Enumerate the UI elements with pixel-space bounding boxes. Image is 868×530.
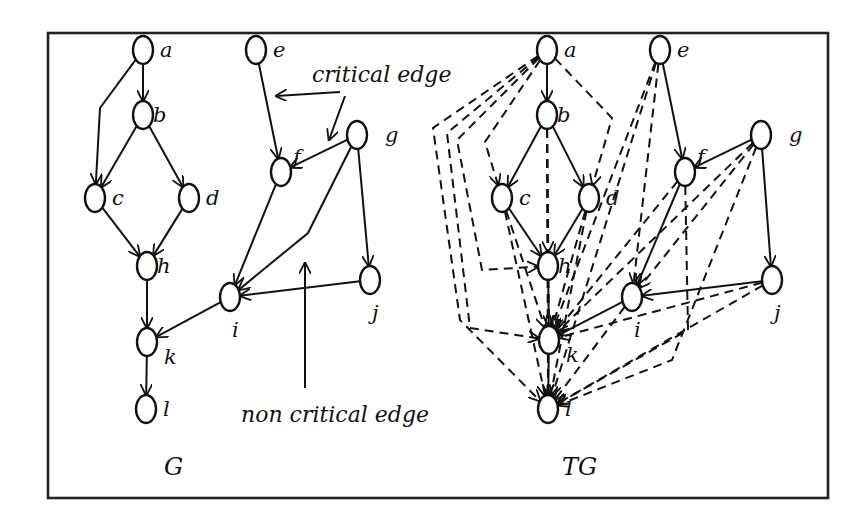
tg-node-label-a: a (564, 38, 577, 62)
g-node-e (246, 36, 266, 64)
g-node-label-l: l (163, 397, 170, 421)
tg-node-i (622, 283, 642, 311)
tg-node-d (579, 184, 599, 212)
g-edge-e-f (259, 64, 278, 159)
tg-edge-g-k (557, 143, 753, 332)
g-node-label-h: h (157, 254, 171, 278)
nodes-layer: abcdhklefgijabcdhklefgij (85, 36, 802, 423)
tg-edge-g-j (762, 149, 771, 266)
tg-node-label-f: f (695, 145, 708, 169)
g-node-label-b: b (153, 103, 166, 127)
edges-layer (96, 56, 771, 405)
g-node-j (360, 266, 380, 294)
critical-edge-label: critical edge (312, 62, 451, 87)
tg-node-g (751, 121, 771, 149)
tg-node-label-i: i (634, 318, 641, 342)
g-edge-k-l (146, 356, 147, 395)
g-node-l (136, 395, 156, 423)
g-edge-d-h (154, 209, 183, 256)
g-node-h (137, 252, 157, 280)
tg-edge-b-c (508, 126, 541, 187)
tg-edge-c-l (505, 211, 545, 395)
g-node-a (133, 36, 153, 64)
tg-edge-b-d (553, 126, 583, 186)
figure-canvas: critical edge non critical edge abcdhkle… (0, 0, 868, 530)
tg-node-label-g: g (789, 123, 802, 147)
tg-node-label-e: e (677, 38, 689, 62)
tg-node-f (675, 158, 695, 186)
g-node-label-d: d (206, 186, 219, 210)
g-node-label-e: e (273, 38, 285, 62)
g-node-label-a: a (160, 38, 173, 62)
critical-edge-pointer-arrow (329, 96, 345, 140)
tg-edge-e-f (663, 64, 682, 159)
tg-node-a (537, 36, 557, 64)
graph-caption-g: G (164, 453, 183, 481)
tg-node-h (538, 252, 558, 280)
g-node-label-k: k (164, 345, 177, 369)
g-node-f (271, 158, 291, 186)
tg-node-e (650, 36, 670, 64)
g-node-label-j: j (368, 301, 379, 325)
g-node-b (133, 101, 153, 129)
tg-node-label-h: h (558, 254, 572, 278)
g-node-d (179, 184, 199, 212)
tg-node-label-k: k (566, 343, 579, 367)
g-node-c (85, 184, 105, 212)
g-edge-b-c (101, 126, 136, 187)
tg-node-label-j: j (770, 301, 781, 325)
g-edge-a-c (96, 60, 136, 184)
g-node-label-f: f (291, 145, 304, 169)
tg-node-b (537, 101, 557, 129)
g-edge-f-i (235, 184, 276, 285)
g-edge-g-j (358, 149, 369, 266)
g-node-label-c: c (112, 186, 124, 210)
tg-node-c (492, 184, 512, 212)
g-node-label-i: i (232, 318, 239, 342)
tg-edge-d-l (551, 212, 587, 396)
g-edge-b-d (149, 126, 183, 187)
g-node-k (137, 328, 157, 356)
g-node-label-g: g (385, 123, 398, 147)
annotations-layer: critical edge non critical edge (241, 62, 451, 427)
tg-node-j (762, 266, 782, 294)
tg-node-label-b: b (557, 103, 570, 127)
tg-edge-a-l (433, 56, 540, 401)
dependency-graph-figure: critical edge non critical edge abcdhkle… (0, 0, 868, 530)
tg-node-l (538, 395, 558, 423)
graph-caption-tg: TG (562, 453, 597, 481)
tg-node-k (539, 326, 559, 354)
g-node-i (220, 283, 240, 311)
tg-node-label-d: d (606, 186, 619, 210)
critical-edge-pointer-arrow (276, 92, 340, 96)
g-edge-i-k (156, 302, 220, 337)
tg-node-label-c: c (519, 186, 531, 210)
g-node-g (347, 121, 367, 149)
non-critical-edge-label: non critical edge (241, 402, 429, 427)
g-edge-j-i (240, 281, 360, 296)
g-edge-c-h (102, 208, 139, 257)
tg-node-label-l: l (565, 397, 572, 421)
